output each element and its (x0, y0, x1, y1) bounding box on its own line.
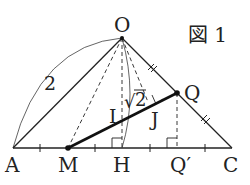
label-I: I (109, 105, 117, 127)
label-H: H (113, 153, 130, 177)
label-OA-length: 2 (44, 72, 56, 94)
figure-title: 図 1 (188, 23, 227, 47)
segment-MQ (68, 93, 177, 148)
label-O: O (114, 13, 130, 37)
label-sqrt-value: 2 (135, 89, 146, 110)
label-C: C (223, 153, 238, 177)
label-J: J (149, 108, 159, 130)
dashed-lines (68, 38, 177, 148)
label-M: M (58, 153, 78, 177)
segment-OA (13, 38, 122, 148)
point-M (65, 145, 71, 151)
point-Q (174, 90, 180, 96)
segment-OM (68, 38, 122, 148)
label-Qp: Q′ (170, 153, 191, 177)
label-A: A (4, 153, 20, 177)
label-Q: Q (184, 81, 200, 105)
geometry-figure: O A M H Q′ C Q I J 2 √ 2 図 1 (0, 0, 250, 185)
